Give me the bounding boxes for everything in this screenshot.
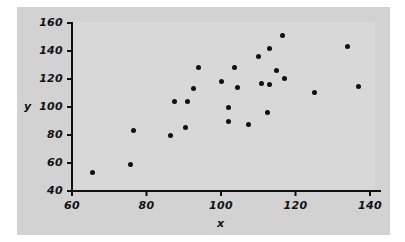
y-tick-label: 140	[29, 44, 63, 57]
data-point	[219, 79, 224, 84]
data-point	[185, 99, 190, 104]
x-tick-label: 60	[52, 199, 92, 212]
data-point	[282, 76, 287, 81]
x-axis-title: x	[217, 217, 224, 230]
data-point	[172, 99, 177, 104]
y-tick-label: 80	[29, 128, 63, 141]
x-tick-label: 120	[276, 199, 316, 212]
y-axis-title: y	[24, 100, 31, 113]
data-point	[267, 82, 272, 87]
x-tick-label: 80	[127, 199, 167, 212]
data-point	[191, 86, 196, 91]
y-tick-label: 160	[29, 16, 63, 29]
data-point	[232, 65, 237, 70]
data-point	[256, 54, 261, 59]
y-tick-label: 100	[29, 100, 63, 113]
y-tick-label: 60	[29, 156, 63, 169]
data-point	[128, 162, 133, 167]
data-point	[267, 46, 272, 51]
data-point	[312, 90, 317, 95]
x-tick-label: 140	[350, 199, 390, 212]
data-point	[131, 128, 136, 133]
data-point	[226, 105, 231, 110]
y-tick-label: 120	[29, 72, 63, 85]
data-point	[183, 125, 188, 130]
x-tick-label: 100	[201, 199, 241, 212]
scatter-plot-figure: 406080100120140160 6080100120140 y x	[0, 0, 405, 242]
y-tick-label: 40	[29, 184, 63, 197]
